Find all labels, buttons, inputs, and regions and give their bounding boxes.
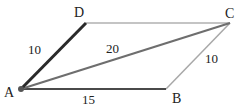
- parallelogram-diagram: A B C D 10 20 10 15: [0, 0, 240, 109]
- point-A: [18, 86, 24, 92]
- vertex-label-C: C: [225, 6, 234, 21]
- vertex-label-D: D: [74, 5, 84, 20]
- vertex-label-A: A: [4, 85, 15, 100]
- length-label-AC: 20: [106, 41, 119, 56]
- vertex-label-B: B: [172, 91, 181, 106]
- length-label-AD: 10: [28, 42, 41, 57]
- length-label-BC: 10: [205, 51, 218, 66]
- length-label-AB: 15: [82, 92, 95, 107]
